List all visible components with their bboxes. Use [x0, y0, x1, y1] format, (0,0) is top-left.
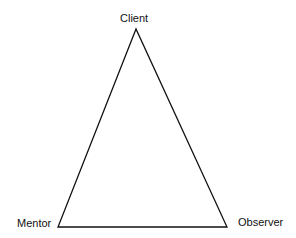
vertex-label-mentor: Mentor — [17, 217, 51, 229]
triangle-shape — [0, 0, 296, 238]
vertex-label-observer: Observer — [238, 216, 283, 228]
vertex-label-client: Client — [120, 12, 148, 24]
triangle-diagram: Client Mentor Observer — [0, 0, 296, 238]
